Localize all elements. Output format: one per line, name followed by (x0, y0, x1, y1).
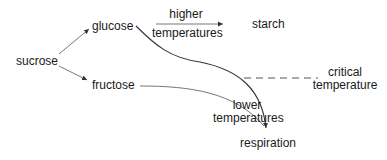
node-fructose: fructose (92, 79, 135, 92)
arrow-sucrose-to-fructose (59, 66, 87, 80)
label-lower-line2: temperatures (213, 112, 281, 125)
label-critical-temperature: critical temperature (312, 66, 378, 92)
label-higher-line1: higher (152, 8, 220, 21)
label-higher-line2: temperatures (152, 27, 220, 40)
node-respiration: respiration (240, 137, 296, 150)
label-higher-temperatures: higher temperatures (152, 8, 220, 40)
arrow-sucrose-to-glucose (59, 29, 89, 54)
label-lower-temperatures: lower temperatures (213, 99, 281, 125)
node-starch: starch (252, 18, 285, 31)
node-sucrose: sucrose (16, 55, 58, 68)
label-critical-line2: temperature (312, 79, 378, 92)
node-glucose: glucose (92, 20, 133, 33)
